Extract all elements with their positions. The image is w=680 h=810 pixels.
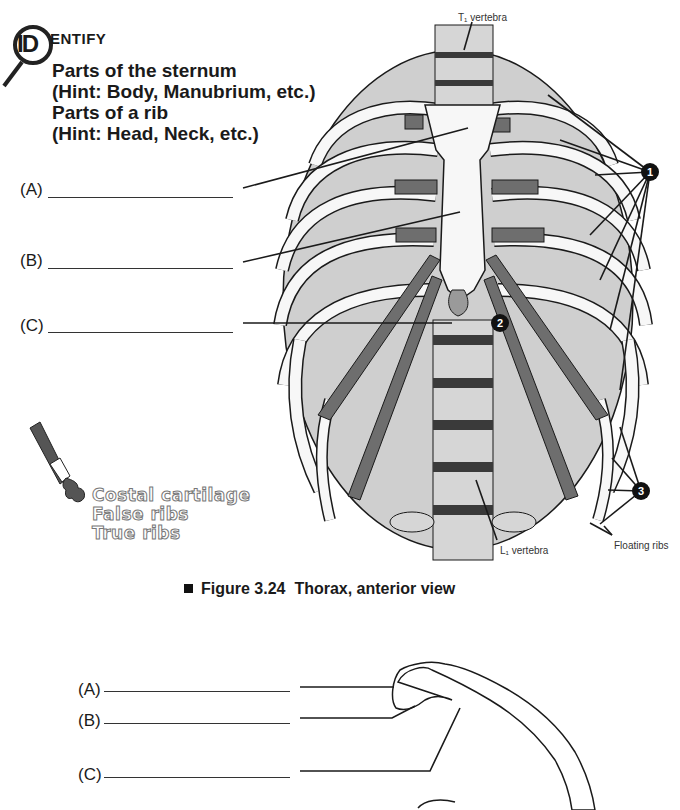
rib-illustration	[0, 0, 680, 810]
